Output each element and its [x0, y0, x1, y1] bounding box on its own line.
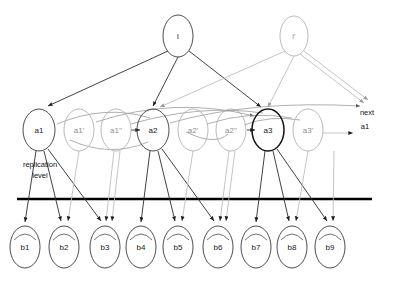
node-b2[interactable]: b2 — [49, 226, 79, 268]
edge-lprime-a3 — [268, 56, 294, 107]
node-b1[interactable]: b1 — [10, 226, 40, 268]
edges-lprime-to-a — [160, 51, 368, 107]
node-b8-label: b8 — [288, 243, 297, 252]
edge-a3p-b8 — [296, 151, 308, 221]
cap-b4 — [130, 234, 152, 240]
node-b2-label: b2 — [60, 243, 69, 252]
node-a2-dprime[interactable]: a2'' — [216, 109, 246, 151]
b-node-caps — [14, 234, 341, 240]
node-b8[interactable]: b8 — [277, 226, 307, 268]
node-l[interactable]: l — [163, 15, 193, 57]
edge-l-a1 — [48, 51, 168, 106]
edge-lprime-next-2 — [300, 54, 364, 103]
cap-b3 — [94, 234, 116, 240]
edge-lprime-a2 — [160, 51, 285, 107]
node-a1-dprime[interactable]: a1'' — [101, 109, 131, 151]
node-a1-prime-label: a1' — [74, 126, 85, 135]
node-b9[interactable]: b9 — [315, 226, 345, 268]
node-b1-label: b1 — [21, 243, 30, 252]
next-pointer-line2: a1 — [361, 122, 369, 131]
edge-lprime-next — [304, 51, 368, 100]
node-a2-prime[interactable]: a2' — [178, 109, 208, 151]
node-a2-label: a2 — [149, 126, 158, 135]
node-a3-label: a3 — [264, 126, 273, 135]
node-a1-label: a1 — [35, 126, 44, 135]
node-a3-prime-label: a3' — [303, 126, 314, 135]
cap-b2 — [53, 234, 75, 240]
edge-l-a3 — [189, 51, 261, 107]
next-pointer-annotation: next a1 — [360, 108, 375, 131]
node-a2-prime-label: a2' — [188, 126, 199, 135]
replication-hierarchy-diagram: l l' a1 a1' a1'' a2 a2' a2'' — [0, 0, 395, 283]
chain-arrows — [131, 130, 353, 133]
node-b4-label: b4 — [137, 243, 146, 252]
edge-a3p-b9 — [333, 151, 334, 221]
cap-b8 — [281, 234, 303, 240]
cap-b6 — [207, 234, 229, 240]
node-l-prime[interactable]: l' — [280, 16, 308, 56]
edge-a3-b7 — [256, 151, 265, 222]
replication-level-annotation: replication level — [23, 160, 57, 180]
node-a1[interactable]: a1 — [23, 109, 55, 151]
cap-b9 — [319, 234, 341, 240]
cap-b1 — [14, 234, 36, 240]
edge-a2-b4 — [141, 151, 150, 222]
node-a2-dprime-label: a2'' — [225, 126, 237, 135]
node-a2[interactable]: a2 — [137, 109, 169, 151]
diagram-canvas: l l' a1 a1' a1'' a2 a2' a2'' — [0, 0, 395, 283]
node-b4[interactable]: b4 — [126, 226, 156, 268]
cap-b7 — [245, 234, 267, 240]
cap-b5 — [167, 234, 189, 240]
node-b7[interactable]: b7 — [241, 226, 271, 268]
node-b3-label: b3 — [101, 243, 110, 252]
node-l-label: l — [177, 32, 179, 41]
edge-a2p-b5 — [182, 151, 193, 221]
node-b5[interactable]: b5 — [163, 226, 193, 268]
edge-a2-b5 — [158, 151, 175, 221]
node-b7-label: b7 — [252, 243, 261, 252]
node-b3[interactable]: b3 — [90, 226, 120, 268]
edges-l-to-a — [48, 51, 261, 107]
node-b9-label: b9 — [326, 243, 335, 252]
replication-level-line1: replication — [23, 160, 57, 169]
edges-a-to-b — [25, 149, 334, 222]
node-b6-label: b6 — [214, 243, 223, 252]
node-b6[interactable]: b6 — [203, 226, 233, 268]
edge-a3-b8 — [273, 151, 289, 221]
node-a1-dprime-label: a1'' — [110, 126, 122, 135]
node-l-prime-label: l' — [292, 32, 296, 41]
node-b5-label: b5 — [174, 243, 183, 252]
next-pointer-line1: next — [360, 108, 375, 117]
edge-a1p-b2 — [68, 151, 79, 221]
node-a3-prime[interactable]: a3' — [293, 109, 323, 151]
replication-level-line2: level — [32, 171, 48, 180]
node-a1-prime[interactable]: a1' — [64, 109, 94, 151]
edge-l-a2 — [153, 57, 178, 106]
